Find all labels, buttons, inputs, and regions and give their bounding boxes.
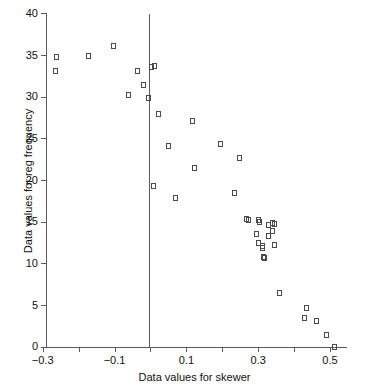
data-point [192, 165, 197, 171]
data-point [272, 242, 277, 248]
x-axis-title: Data values for skewer [42, 371, 347, 383]
y-tick [41, 263, 46, 264]
data-point [257, 219, 262, 225]
data-point [152, 63, 157, 69]
data-point [246, 217, 251, 223]
y-tick [41, 55, 46, 56]
x-tick-label: 0.1 [166, 355, 206, 366]
data-point [262, 255, 267, 261]
y-tick-label: 40 [26, 8, 38, 19]
x-tick [186, 347, 187, 352]
x-tick-label: 0.3 [238, 355, 278, 366]
data-point [141, 82, 146, 88]
x-tick [150, 347, 151, 352]
scatter-plot: 0510152025303540 −0.3−0.10.10.30.5 Data … [0, 0, 377, 390]
data-point [270, 228, 275, 234]
data-point [54, 54, 59, 60]
y-tick [41, 222, 46, 223]
x-tick [222, 347, 223, 352]
data-point [146, 95, 151, 101]
data-point [135, 68, 140, 74]
data-point [324, 332, 329, 338]
y-tick [41, 13, 46, 14]
x-tick [79, 347, 80, 352]
data-point [111, 43, 116, 49]
data-point [151, 183, 156, 189]
data-point [277, 290, 282, 296]
y-axis-title: Data values for reg frequency [22, 61, 34, 301]
x-tick-label: 0.5 [310, 355, 350, 366]
data-point [190, 118, 195, 124]
data-point [232, 190, 237, 196]
data-point [218, 141, 223, 147]
y-tick [41, 180, 46, 181]
data-point [272, 221, 277, 227]
data-point [254, 231, 259, 237]
y-tick [41, 97, 46, 98]
data-point [260, 243, 265, 249]
data-point [304, 305, 309, 311]
chart-page: 0510152025303540 −0.3−0.10.10.30.5 Data … [0, 0, 377, 390]
y-tick-label: 5 [32, 300, 38, 311]
data-point [156, 111, 161, 117]
data-point [53, 68, 58, 74]
y-axis-line [46, 13, 47, 347]
x-tick [43, 347, 44, 352]
x-tick [258, 347, 259, 352]
x-tick [115, 347, 116, 352]
y-tick-label: 0 [32, 341, 38, 352]
y-tick [41, 305, 46, 306]
x-tick-label: −0.3 [23, 355, 63, 366]
y-tick-label: 35 [26, 50, 38, 61]
data-point [237, 155, 242, 161]
x-tick [294, 347, 295, 352]
data-point [302, 315, 307, 321]
x-tick-label: −0.1 [95, 355, 135, 366]
data-point [173, 195, 178, 201]
data-point [166, 143, 171, 149]
data-point [86, 53, 91, 59]
y-tick [41, 138, 46, 139]
data-point [332, 344, 337, 350]
x-axis-line [42, 347, 347, 348]
data-point [126, 92, 131, 98]
data-point [314, 318, 319, 324]
